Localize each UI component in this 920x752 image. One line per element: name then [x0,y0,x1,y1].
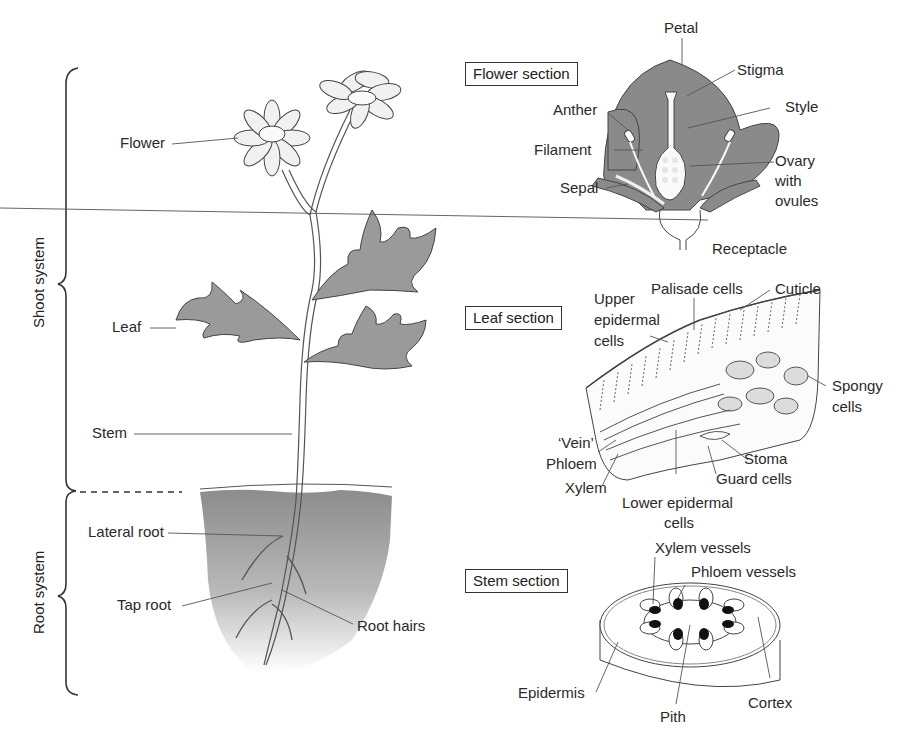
style-label: Style [785,98,818,116]
upper-epidermal-label-line2: epidermal [594,311,660,329]
soil-block [200,490,392,672]
epidermis-label: Epidermis [518,684,585,702]
phloem-vessels-label: Phloem vessels [691,563,796,581]
stem-section-drawing [600,583,780,687]
petal-label: Petal [664,19,698,37]
stem-section-title: Stem section [465,569,568,593]
lateral-root-label: Lateral root [88,523,164,541]
flower-left-drawing [234,100,310,176]
leaves-drawing [176,210,436,369]
root-hairs-label: Root hairs [357,617,425,635]
filament-label: Filament [534,141,592,159]
ovary-label-line1: Ovary [775,152,815,170]
flower-section-title: Flower section [465,62,578,86]
palisade-cells-label: Palisade cells [651,280,743,298]
upper-epidermal-label-line1: Upper [594,290,635,308]
sepal-label: Sepal [560,179,598,197]
xylem-label: Xylem [565,479,607,497]
stoma-label: Stoma [744,450,787,468]
spongy-cells-label-line1: Spongy [832,377,883,395]
root-system-bracket [58,491,78,695]
upper-epidermal-label-line3: cells [594,332,624,350]
cortex-label: Cortex [748,694,792,712]
root-system-label: Root system [30,551,47,634]
guard-cells-label: Guard cells [716,470,792,488]
shoot-system-bracket [58,68,78,491]
leaf-label: Leaf [112,318,141,336]
flower-section-drawing [592,60,779,250]
phloem-label: Phloem [546,455,597,473]
anther-label: Anther [553,101,597,119]
spongy-cells-label-line2: cells [832,398,862,416]
tap-root-label: Tap root [117,596,171,614]
ovary-label-line3: ovules [775,192,818,210]
shoot-system-label: Shoot system [30,237,47,328]
vein-label: ‘Vein’ [558,434,594,452]
flower-label: Flower [120,134,165,152]
lower-epidermal-label-line2: cells [664,514,694,532]
flower-right-drawing [317,67,402,131]
leaf-section-title: Leaf section [465,306,562,330]
ovary-label-line2: with [775,172,802,190]
stigma-label: Stigma [737,61,784,79]
cuticle-label: Cuticle [775,280,821,298]
lower-epidermal-label-line1: Lower epidermal [622,494,733,512]
receptacle-label: Receptacle [712,240,787,258]
pith-label: Pith [660,708,686,726]
stem-label: Stem [92,424,127,442]
xylem-vessels-label: Xylem vessels [655,539,751,557]
plant-diagram [0,0,920,752]
